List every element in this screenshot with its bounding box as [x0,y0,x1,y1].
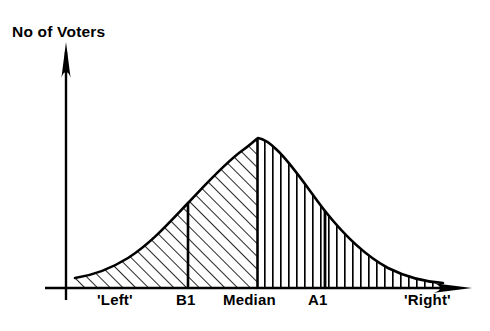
y-axis-title: No of Voters [12,24,105,40]
x-axis-tick-label-median: Median [223,292,276,307]
x-axis-tick-label-a1: A1 [308,292,328,307]
x-axis-tick-label-right: 'Right' [404,292,451,307]
voter-distribution-figure: No of Voters 'Left' B1 Median A1 'Right' [0,0,490,331]
curve-fill-group [75,138,443,288]
x-axis-tick-label-b1: B1 [176,292,196,307]
x-axis-tick-label-left: 'Left' [97,292,133,307]
bell-curve-chart [0,0,490,331]
